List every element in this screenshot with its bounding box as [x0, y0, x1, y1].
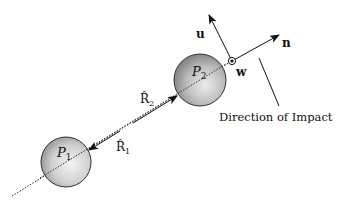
- impact-pointer-line: [259, 58, 279, 106]
- w-point-dot: [230, 59, 233, 62]
- vector-n-arrow: [232, 35, 279, 61]
- collision-diagram: P1 P2 R̂2 R̂1 u n w Direction of Impact: [0, 0, 348, 206]
- label-n: n: [282, 36, 291, 50]
- label-r1: R̂1: [116, 139, 130, 156]
- label-direction-of-impact: Direction of Impact: [219, 110, 333, 124]
- label-w: w: [235, 65, 247, 79]
- label-u: u: [196, 27, 205, 41]
- label-r2: R̂2: [140, 91, 154, 108]
- vector-u-arrow: [209, 15, 232, 61]
